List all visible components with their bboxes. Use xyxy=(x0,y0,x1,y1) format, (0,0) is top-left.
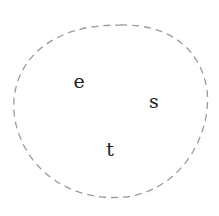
element-s: s xyxy=(149,90,159,112)
set-boundary-dashed-curve xyxy=(14,25,208,198)
element-e: e xyxy=(73,70,84,92)
set-diagram: e s t xyxy=(0,0,219,216)
element-t: t xyxy=(106,138,114,160)
